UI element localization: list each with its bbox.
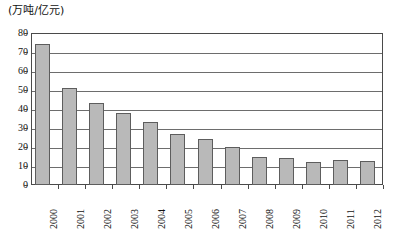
bar xyxy=(360,161,375,185)
bar-slot xyxy=(35,33,50,185)
y-axis-tick-mark xyxy=(24,166,28,167)
x-axis-tick-mark xyxy=(383,185,384,189)
bar-slot xyxy=(225,33,240,185)
bar-slot xyxy=(306,33,321,185)
y-axis-tick-mark xyxy=(24,71,28,72)
bar-slot xyxy=(279,33,294,185)
x-axis-tick-label: 2007 xyxy=(237,189,248,229)
x-axis-tick-label: 2001 xyxy=(75,189,86,229)
bar xyxy=(198,139,213,185)
x-axis-tick-label: 2012 xyxy=(372,189,383,229)
bar xyxy=(225,147,240,185)
bar-slot xyxy=(116,33,131,185)
bar xyxy=(170,134,185,185)
bar xyxy=(35,44,50,185)
bar xyxy=(143,122,158,185)
y-axis-tick-mark xyxy=(24,33,28,34)
x-axis-tick-label: 2006 xyxy=(210,189,221,229)
y-axis-tick-mark xyxy=(24,90,28,91)
bar-slot xyxy=(198,33,213,185)
y-axis-tick-mark xyxy=(24,185,28,186)
x-axis-tick-label: 2000 xyxy=(48,189,59,229)
bar xyxy=(116,113,131,185)
x-axis-tick-label: 2004 xyxy=(156,189,167,229)
bar-slot xyxy=(62,33,77,185)
bar xyxy=(252,157,267,186)
y-axis-tick-mark xyxy=(24,147,28,148)
x-axis-tick-label: 2002 xyxy=(102,189,113,229)
bar-chart: (万吨/亿元) 01020304050607080 20002001200220… xyxy=(0,0,395,232)
bar xyxy=(62,88,77,185)
x-axis-tick-labels: 2000200120022003200420052006200720082009… xyxy=(31,189,383,231)
x-axis-tick-label: 2010 xyxy=(318,189,329,229)
bars-layer xyxy=(31,33,383,185)
bar xyxy=(279,158,294,185)
y-axis-unit-label: (万吨/亿元) xyxy=(8,4,64,17)
y-axis-tick-labels: 01020304050607080 xyxy=(0,33,28,185)
bar-slot xyxy=(170,33,185,185)
x-axis-tick-label: 2011 xyxy=(345,189,356,229)
bar xyxy=(89,103,104,185)
bar xyxy=(306,162,321,185)
bar-slot xyxy=(333,33,348,185)
bar-slot xyxy=(252,33,267,185)
y-axis-tick-mark xyxy=(24,109,28,110)
bar-slot xyxy=(360,33,375,185)
x-axis-tick-label: 2003 xyxy=(129,189,140,229)
x-axis-tick-label: 2009 xyxy=(291,189,302,229)
bar-slot xyxy=(143,33,158,185)
bar-slot xyxy=(89,33,104,185)
x-axis-tick-label: 2005 xyxy=(183,189,194,229)
y-axis-tick-mark xyxy=(24,128,28,129)
bar xyxy=(333,160,348,185)
x-axis-tick-label: 2008 xyxy=(264,189,275,229)
y-axis-tick-mark xyxy=(24,52,28,53)
